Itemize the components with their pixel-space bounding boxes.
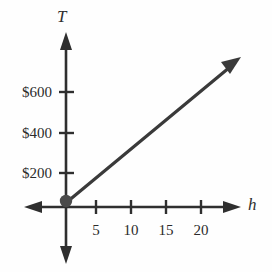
x-tick-label-15: 15 [151,223,181,238]
y-tick-label-400-wrap: $400 [0,126,52,141]
y-tick-label-200-wrap: $200 [0,166,52,181]
x-tick-label-10: 10 [116,223,146,238]
origin-point-marker [60,195,72,207]
x-axis-right-arrowhead [223,201,241,213]
y-axis-up-arrowhead [60,32,72,50]
y-axis-down-arrowhead [60,246,72,264]
x-axis-label: h [248,196,257,213]
x-tick-label-20: 20 [186,223,216,238]
x-axis-left-arrowhead [24,201,42,213]
y-tick-label-400: $400 [22,126,52,141]
y-axis-label: T [57,8,67,25]
x-tick-label-5: 5 [81,223,111,238]
y-tick-label-200: $200 [22,166,52,181]
y-tick-label-600-wrap: $600 [0,85,52,100]
graph-figure: T h $600 $400 $200 5 10 15 20 [0,0,272,272]
y-tick-label-600: $600 [22,85,52,100]
data-ray [67,67,230,202]
